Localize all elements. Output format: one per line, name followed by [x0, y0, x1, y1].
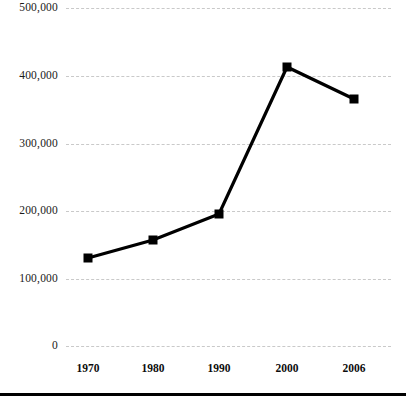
bottom-rule [0, 393, 406, 396]
x-axis-tick-label-1990: 1990 [208, 363, 231, 375]
x-axis-tick-label-1980: 1980 [142, 363, 165, 375]
plot-area: 500,000 400,000 300,000 200,000 100,000 … [0, 0, 406, 406]
series-layer [0, 0, 406, 406]
x-axis-tick-label-2006: 2006 [343, 363, 366, 375]
data-point-1970 [84, 254, 93, 263]
x-axis-tick-label-2000: 2000 [276, 363, 299, 375]
data-point-2000 [283, 63, 292, 72]
data-point-1980 [149, 236, 158, 245]
line-chart: 500,000 400,000 300,000 200,000 100,000 … [0, 0, 406, 406]
series-line [88, 67, 354, 258]
data-point-1990 [215, 210, 224, 219]
x-axis-tick-label-1970: 1970 [77, 363, 100, 375]
data-point-2006 [350, 95, 359, 104]
